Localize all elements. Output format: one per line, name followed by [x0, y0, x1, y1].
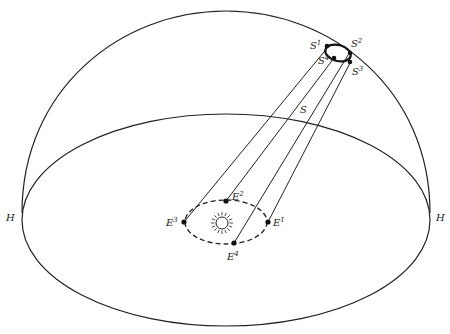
label-s1: S1: [310, 39, 321, 51]
label-s4: S4: [318, 54, 329, 66]
horizon-label-right: H: [435, 212, 445, 223]
label-e1: E1: [272, 216, 285, 228]
label-s3: S3: [352, 65, 364, 77]
label-e3: E3: [165, 216, 178, 228]
sun-icon: [211, 212, 233, 234]
star-label: S: [300, 104, 307, 115]
sight-lines: [184, 47, 350, 243]
horizon-label-left: H: [5, 212, 15, 223]
horizon-ellipse: [22, 114, 430, 326]
dome-outline: [22, 11, 430, 213]
label-e4: E4: [226, 250, 239, 262]
label-e2: E2: [231, 190, 244, 202]
celestial-sphere-diagram: H H S S1 S2 S3 S4 E1 E2 E3 E4: [0, 0, 450, 334]
label-s2: S2: [351, 37, 363, 49]
